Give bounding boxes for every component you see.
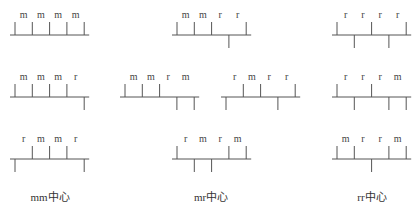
dyad-label: r: [285, 71, 289, 82]
dyad-label: m: [342, 133, 350, 144]
dyad-label: r: [74, 133, 78, 144]
dyad-label: m: [234, 133, 242, 144]
pentad-chain: rrrm: [332, 71, 411, 110]
stereosequence-diagram: mmmmmmmrrmmrmmrrmmrmrmrrrmrmrrrrrrrmmrrm: [0, 0, 420, 210]
dyad-label: m: [54, 133, 62, 144]
caption-mm-centered: mm中心: [30, 188, 69, 204]
caption-rr-centered: rr中心: [357, 188, 386, 204]
dyad-label: m: [20, 71, 28, 82]
dyad-label: m: [394, 133, 402, 144]
pentad-chain: mmmr: [10, 71, 89, 110]
dyad-label: r: [236, 9, 240, 20]
dyad-label: r: [361, 9, 365, 20]
dyad-label: m: [130, 71, 138, 82]
caption-mr-centered: mr中心: [194, 188, 228, 204]
pentad-chain: mmrr: [172, 9, 251, 48]
dyad-label: r: [22, 133, 26, 144]
dyad-label: m: [37, 133, 45, 144]
dyad-label: r: [361, 71, 365, 82]
dyad-label: m: [37, 71, 45, 82]
dyad-label: m: [72, 9, 80, 20]
dyad-label: r: [184, 133, 188, 144]
dyad-label: r: [344, 9, 348, 20]
group-rr-centered: rrrrrrrmmrrm: [332, 9, 411, 172]
pentad-chain: rmrm: [172, 133, 251, 172]
pentad-chain: rrrr: [332, 9, 411, 48]
dyad-label: m: [394, 71, 402, 82]
dyad-label: r: [379, 133, 383, 144]
dyad-label: m: [199, 133, 207, 144]
dyad-label: m: [54, 9, 62, 20]
dyad-label: m: [20, 9, 28, 20]
dyad-label: m: [248, 71, 256, 82]
dyad-label: r: [219, 9, 223, 20]
pentad-chain: mmrm: [120, 71, 199, 110]
dyad-label: r: [219, 133, 223, 144]
dyad-label: r: [167, 71, 171, 82]
dyad-label: r: [361, 133, 365, 144]
dyad-label: m: [182, 71, 190, 82]
dyad-label: r: [396, 9, 400, 20]
dyad-label: m: [147, 71, 155, 82]
pentad-chain: rmmr: [10, 133, 89, 172]
pentad-chain: mmmm: [10, 9, 89, 35]
dyad-label: r: [74, 71, 78, 82]
dyad-label: m: [54, 71, 62, 82]
group-mr-centered: mmrrmmrmrmrrrmrm: [120, 9, 300, 172]
dyad-label: r: [344, 71, 348, 82]
dyad-label: r: [379, 9, 383, 20]
dyad-label: m: [199, 9, 207, 20]
pentad-chain: mrrm: [332, 133, 411, 172]
group-mm-centered: mmmmmmmrrmmr: [10, 9, 89, 172]
pentad-chain: rmrr: [221, 71, 300, 110]
dyad-label: r: [379, 71, 383, 82]
dyad-label: r: [233, 71, 237, 82]
dyad-label: m: [37, 9, 45, 20]
dyad-label: r: [268, 71, 272, 82]
dyad-label: m: [182, 9, 190, 20]
